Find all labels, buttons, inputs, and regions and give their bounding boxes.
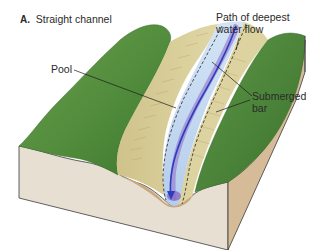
path-label-line1: Path of deepest <box>216 12 290 23</box>
bar-label-line2: bar <box>252 103 267 114</box>
straight-channel-block-diagram <box>0 0 329 250</box>
panel-letter: A. <box>20 14 30 25</box>
pool-label: Pool <box>51 64 72 75</box>
bar-label-line1: Submerged <box>252 91 306 102</box>
path-label-line2: water flow <box>216 24 263 35</box>
figure-title: A. Straight channel <box>20 14 112 25</box>
figure-title-text: Straight channel <box>36 13 112 25</box>
